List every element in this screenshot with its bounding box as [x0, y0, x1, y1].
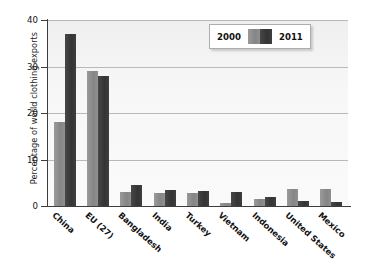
bar-2011 — [265, 197, 276, 206]
bar-2000 — [87, 71, 98, 206]
y-tick-label: 40 — [8, 15, 38, 25]
bar-2011 — [198, 191, 209, 206]
y-tick-mark — [41, 20, 47, 21]
y-tick-mark — [41, 160, 47, 161]
bar-2000 — [254, 199, 265, 206]
bar-group — [115, 20, 148, 206]
bar-2000 — [187, 193, 198, 206]
legend-swatch-2011 — [260, 29, 272, 44]
bar-2000 — [320, 189, 331, 206]
bar-2011 — [165, 190, 176, 206]
y-tick-mark — [41, 113, 47, 114]
x-axis-label: China — [50, 210, 76, 235]
clothing-exports-bar-chart: Percentage of world clothing exports 010… — [0, 0, 372, 275]
x-axis-label: India — [150, 210, 174, 233]
bar-2000 — [120, 192, 131, 206]
chart-legend: 2000 2011 — [209, 24, 311, 49]
legend-label-2011: 2011 — [279, 32, 303, 42]
bar-group — [315, 20, 348, 206]
x-axis-line — [41, 206, 351, 207]
bar-2011 — [131, 185, 142, 206]
bar-2000 — [154, 193, 165, 206]
x-axis-label: Vietnam — [217, 210, 253, 244]
y-tick-label: 30 — [8, 62, 38, 72]
x-axis-label: Mexico — [317, 210, 348, 240]
y-tick-mark — [41, 67, 47, 68]
bar-group — [148, 20, 181, 206]
bar-2000 — [287, 189, 298, 206]
x-axis-label: Turkey — [183, 210, 213, 238]
bar-2011 — [98, 76, 109, 206]
y-tick-label: 10 — [8, 155, 38, 165]
y-tick-mark — [41, 206, 47, 207]
bar-2000 — [54, 122, 65, 206]
bar-group — [48, 20, 81, 206]
bar-2011 — [231, 192, 242, 206]
legend-label-2000: 2000 — [217, 32, 241, 42]
bar-group — [81, 20, 114, 206]
y-tick-label: 20 — [8, 108, 38, 118]
bar-2011 — [65, 34, 76, 206]
legend-swatch-2000 — [248, 29, 260, 44]
x-axis-label: EU (27) — [83, 210, 116, 241]
y-tick-label: 0 — [8, 201, 38, 211]
y-axis-line — [47, 19, 48, 207]
